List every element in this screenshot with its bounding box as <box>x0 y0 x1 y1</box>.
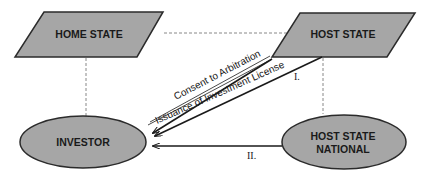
investor-label: INVESTOR <box>56 136 110 148</box>
host-state-national-label-line2: NATIONAL <box>316 143 370 155</box>
home-state-label: HOME STATE <box>55 28 122 40</box>
edge-relation-two: II. <box>153 146 282 161</box>
node-investor: INVESTOR <box>20 116 146 168</box>
node-host-state: HOST STATE <box>272 13 415 57</box>
relation-two-label: II. <box>247 150 256 161</box>
node-home-state: HOME STATE <box>15 12 163 57</box>
relation-one-label: I. <box>294 71 300 82</box>
host-state-national-label-line1: HOST STATE <box>311 130 376 142</box>
node-host-state-national: HOST STATE NATIONAL <box>282 115 406 169</box>
host-state-label: HOST STATE <box>311 28 376 40</box>
arbitration-diagram: HOME STATE HOST STATE INVESTOR HOST STAT… <box>0 0 428 179</box>
